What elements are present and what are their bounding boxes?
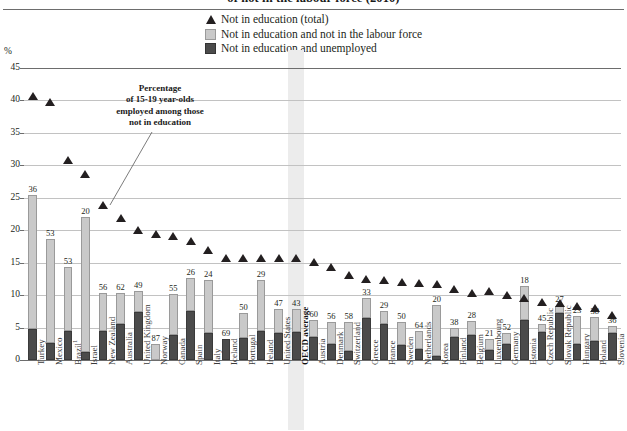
chart-root: of not in the labour force (2010) Not in… <box>0 0 627 431</box>
annotation-leader-line <box>0 0 627 431</box>
